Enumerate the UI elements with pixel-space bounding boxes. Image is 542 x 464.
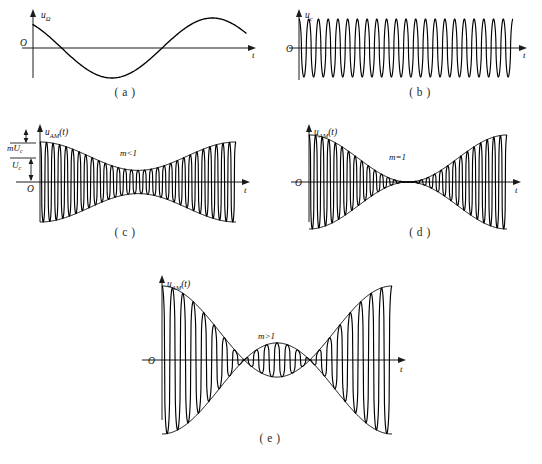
panel-c-level-label-mUc: mUc xyxy=(7,143,23,154)
panel-e-origin-label: O xyxy=(148,356,155,366)
am-waveform-figure: uΩ O t ( a ) uc O t ( b ) xyxy=(0,0,542,464)
panel-d-lower-envelope xyxy=(309,182,507,229)
panel-c-x-axis-label: t xyxy=(244,185,247,195)
panel-c-Uc-arrow xyxy=(29,158,34,181)
panel-e: uAM(t) O m>1 t xyxy=(110,262,430,427)
panel-b-x-axis-label: t xyxy=(523,50,526,60)
panel-d-plot: uAM(t) O m=1 t xyxy=(271,110,542,228)
panel-a-y-arrow xyxy=(30,9,36,17)
panel-c-upper-envelope xyxy=(40,142,236,170)
panel-b-origin-label: O xyxy=(286,44,293,54)
panel-a-y-axis-label: uΩ xyxy=(41,10,51,22)
panel-e-y-arrow xyxy=(159,275,165,283)
panel-b-caption: ( b ) xyxy=(380,86,460,98)
panel-a-x-axis-label: t xyxy=(252,50,255,60)
panel-a-plot: uΩ O t xyxy=(0,0,271,85)
panel-d: uAM(t) O m=1 t xyxy=(271,110,542,228)
panel-b-plot: uc O t xyxy=(271,0,542,85)
panel-e-upper-envelope xyxy=(162,286,392,360)
panel-d-y-axis-label: uAM(t) xyxy=(314,127,337,139)
panel-d-annotation: m=1 xyxy=(389,152,406,162)
panel-c-annotation: m<1 xyxy=(120,148,137,158)
panel-c-mUc-arrow xyxy=(24,129,29,143)
panel-e-caption: ( e ) xyxy=(230,432,310,444)
panel-d-y-arrow xyxy=(306,124,312,132)
panel-d-upper-envelope xyxy=(309,135,507,182)
panel-c-y-arrow xyxy=(37,124,43,132)
panel-b: uc O t xyxy=(271,0,542,85)
panel-c-level-label-Uc: Uc xyxy=(12,160,22,171)
panel-e-x-axis-label: t xyxy=(400,364,403,374)
panel-b-y-arrow xyxy=(296,9,302,17)
panel-c-lower-envelope xyxy=(40,194,236,222)
panel-a-caption: ( a ) xyxy=(85,86,165,98)
panel-d-caption: ( d ) xyxy=(380,226,460,238)
panel-d-x-axis-label: t xyxy=(515,185,518,195)
panel-e-x-arrow xyxy=(398,357,406,363)
panel-e-y-axis-label: uAM(t) xyxy=(167,279,190,291)
panel-b-y-axis-label: uc xyxy=(305,10,313,22)
panel-d-origin-label: O xyxy=(295,178,302,188)
panel-c: uAM(t) mUc Uc O m<1 t xyxy=(0,110,271,228)
panel-a: uΩ O t xyxy=(0,0,271,85)
panel-a-origin-label: O xyxy=(20,38,27,48)
panel-e-annotation: m>1 xyxy=(258,331,275,341)
panel-c-origin-label: O xyxy=(27,184,34,194)
panel-c-plot: uAM(t) mUc Uc O m<1 t xyxy=(0,110,271,228)
panel-c-y-axis-label: uAM(t) xyxy=(45,127,68,139)
panel-c-caption: ( c ) xyxy=(85,226,165,238)
panel-e-plot: uAM(t) O m>1 t xyxy=(110,262,430,427)
